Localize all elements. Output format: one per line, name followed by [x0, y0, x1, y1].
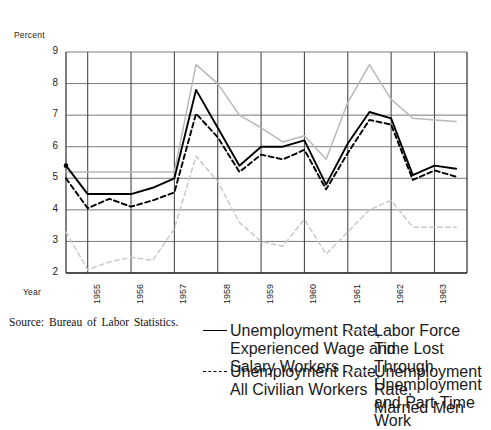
legend-swatch-married_men-icon — [347, 366, 371, 377]
legend-swatch-time_lost-icon — [347, 325, 371, 336]
legend-entry-married_men: Unemployment Rate, Married Men — [347, 363, 491, 417]
series-start-marker-experienced — [64, 163, 69, 168]
legend-swatch-experienced-icon — [203, 325, 227, 336]
legend-label-married_men: Unemployment Rate, Married Men — [374, 363, 491, 417]
source-note: Source: Bureau of Labor Statistics. — [9, 316, 178, 328]
legend-swatch-all_civilian-icon — [203, 366, 227, 377]
